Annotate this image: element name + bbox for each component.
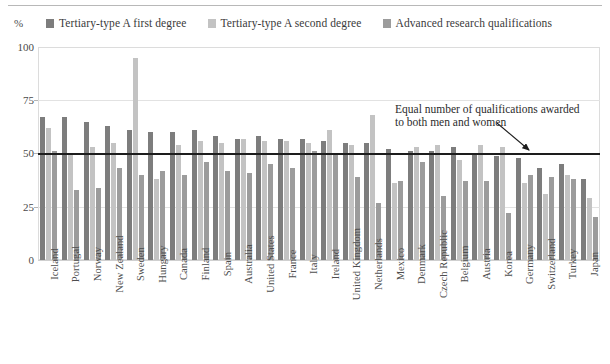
bar[interactable] [300, 139, 305, 260]
bar[interactable] [284, 141, 289, 260]
bar[interactable] [84, 122, 89, 260]
x-label-cell: Korea [492, 262, 514, 362]
bar[interactable] [327, 130, 332, 260]
bar[interactable] [52, 151, 57, 260]
x-label-cell: Netherlands [362, 262, 384, 362]
parity-annotation-text: Equal number of qualifications awarded t… [395, 103, 580, 129]
legend-label: Advanced research qualifications [396, 17, 552, 29]
bar[interactable] [565, 175, 570, 260]
bar[interactable] [386, 149, 391, 260]
legend-label: Tertiary-type A first degree [59, 17, 187, 29]
x-axis-label: Spain [222, 252, 233, 276]
y-tick-75: 75 [4, 94, 34, 106]
legend-item-tertiary-a-first-degree[interactable]: Tertiary-type A first degree [46, 17, 187, 29]
x-label-cell: New Zealand [103, 262, 125, 362]
bar[interactable] [62, 117, 67, 260]
bar[interactable] [333, 154, 338, 261]
bar[interactable] [364, 143, 369, 260]
x-axis-label: Belgium [459, 246, 470, 283]
y-tick-100: 100 [4, 41, 34, 53]
x-axis-label: France [287, 249, 298, 278]
x-axis-label: Japan [589, 252, 600, 276]
bar[interactable] [278, 139, 283, 260]
y-tick-0: 0 [4, 254, 34, 266]
bar[interactable] [343, 143, 348, 260]
x-axis-label: Czech Republic [438, 230, 449, 298]
header-divider [8, 5, 602, 6]
x-axis-label: United States [265, 235, 276, 293]
x-axis-label: Sweden [135, 247, 146, 281]
bar[interactable] [587, 198, 592, 260]
legend-label: Tertiary-type A second degree [221, 17, 362, 29]
bar[interactable] [204, 162, 209, 260]
x-axis-label: Netherlands [373, 238, 384, 290]
bar[interactable] [321, 141, 326, 260]
bar[interactable] [213, 136, 218, 260]
x-axis-label: Portugal [70, 246, 81, 282]
x-axis-label: Iceland [49, 248, 60, 280]
bar[interactable] [192, 130, 197, 260]
bar[interactable] [40, 117, 45, 260]
x-axis-label: United Kingdom [351, 228, 362, 300]
x-label-cell: Hungary [146, 262, 168, 362]
x-label-cell: Spain [211, 262, 233, 362]
x-label-cell: Mexico [384, 262, 406, 362]
x-axis-label: Germany [524, 244, 535, 284]
bar[interactable] [537, 168, 542, 260]
bar[interactable] [148, 132, 153, 260]
x-label-cell: Germany [513, 262, 535, 362]
chart-legend: % Tertiary-type A first degree Tertiary-… [14, 15, 604, 31]
bar[interactable] [516, 158, 521, 260]
legend-item-tertiary-a-second-degree[interactable]: Tertiary-type A second degree [208, 17, 362, 29]
bar[interactable] [478, 145, 483, 260]
bar[interactable] [198, 141, 203, 260]
x-axis-label: Finland [200, 248, 211, 281]
bar[interactable] [581, 179, 586, 260]
bar[interactable] [290, 168, 295, 260]
bar[interactable] [133, 58, 138, 260]
bar[interactable] [90, 147, 95, 260]
bar[interactable] [472, 154, 477, 261]
bar[interactable] [500, 147, 505, 260]
bar[interactable] [451, 147, 456, 260]
bar[interactable] [241, 139, 246, 260]
x-label-cell: Australia [232, 262, 254, 362]
bar[interactable] [68, 154, 73, 261]
x-label-cell: Portugal [60, 262, 82, 362]
x-label-cell: France [276, 262, 298, 362]
x-label-cell: Finland [189, 262, 211, 362]
bar[interactable] [494, 156, 499, 260]
y-tick-25: 25 [4, 201, 34, 213]
bar[interactable] [235, 139, 240, 260]
y-axis: 100 75 50 25 0 [0, 0, 34, 364]
bar[interactable] [306, 143, 311, 260]
x-label-cell: Norway [81, 262, 103, 362]
x-axis-label: Austria [481, 248, 492, 280]
bar[interactable] [105, 126, 110, 260]
legend-item-advanced-research-qualifications[interactable]: Advanced research qualifications [383, 17, 552, 29]
annotation-line-1: Equal number of qualifications awarded [395, 103, 580, 116]
bar[interactable] [46, 128, 51, 260]
bar[interactable] [176, 145, 181, 260]
x-axis-label: Hungary [157, 245, 168, 282]
x-axis-label: Canada [178, 248, 189, 280]
bar[interactable] [219, 143, 224, 260]
bar[interactable] [408, 151, 413, 260]
square-swatch-icon [46, 19, 54, 28]
x-label-cell: Italy [297, 262, 319, 362]
legend-items: Tertiary-type A first degree Tertiary-ty… [46, 17, 552, 29]
x-label-cell: Belgium [449, 262, 471, 362]
bar[interactable] [170, 132, 175, 260]
bar[interactable] [225, 171, 230, 260]
square-swatch-icon [383, 19, 391, 28]
x-label-cell: Switzerland [535, 262, 557, 362]
bar[interactable] [127, 130, 132, 260]
bar[interactable] [429, 151, 434, 260]
x-axis-label: Norway [92, 247, 103, 281]
bar[interactable] [559, 164, 564, 260]
bar[interactable] [256, 136, 261, 260]
x-axis-label: Korea [503, 251, 514, 277]
x-label-cell: Denmark [405, 262, 427, 362]
bar[interactable] [312, 151, 317, 260]
x-axis-label: New Zealand [114, 235, 125, 292]
